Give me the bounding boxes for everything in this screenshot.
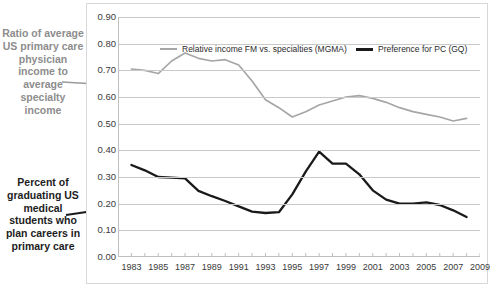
gridline [118,70,480,71]
legend-swatch-icon [356,48,373,51]
annotation-income-ratio: Ratio of average US primary care physici… [2,27,84,117]
x-axis: 1983198519871989199119931995199719992001… [118,262,480,278]
series-line [131,152,466,217]
y-axis-tick-label: 0.00 [82,251,116,262]
legend-label: Relative income FM vs. specialties (MGMA… [182,44,347,54]
gridline [118,177,480,178]
y-axis-tick-label: 0.50 [82,118,116,129]
y-axis-tick-label: 0.10 [82,224,116,235]
y-axis-tick-label: 0.60 [82,91,116,102]
y-axis-tick-label: 0.70 [82,64,116,75]
chart-figure: Ratio of average US primary care physici… [0,0,503,297]
y-axis-tick-label: 0.40 [82,144,116,155]
gridline [118,150,480,151]
series-line [131,53,466,121]
gridline [118,204,480,205]
gridline [118,17,480,18]
legend-swatch-icon [160,48,177,50]
legend-item-relative-income: Relative income FM vs. specialties (MGMA… [160,44,347,54]
y-axis-tick-label: 0.30 [82,171,116,182]
y-axis-tick-label: 0.90 [82,11,116,22]
gridline [118,124,480,125]
annotation-student-preference: Percent of graduating US medical student… [2,176,84,253]
legend-item-preference-pc: Preference for PC (GQ) [356,44,467,54]
x-axis-tick-label: 2009 [462,262,498,272]
chart-legend: Relative income FM vs. specialties (MGMA… [160,44,460,58]
y-axis: 0.900.800.700.600.500.400.300.200.100.00 [80,17,116,257]
legend-label: Preference for PC (GQ) [378,44,467,54]
y-axis-tick-label: 0.20 [82,198,116,209]
gridline [118,97,480,98]
y-axis-tick-label: 0.80 [82,38,116,49]
gridline [118,230,480,231]
